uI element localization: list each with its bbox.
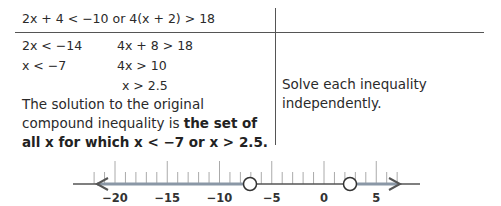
right-step-1: 4x + 8 > 18	[117, 38, 193, 54]
number-line-labels: −20−15−10−505	[102, 191, 380, 205]
left-step-2: x < −7	[22, 58, 66, 74]
right-step-3: x > 2.5	[122, 78, 168, 94]
tick-label: −5	[263, 191, 281, 205]
tick-label: 5	[372, 191, 380, 205]
tick-label: −20	[102, 191, 128, 205]
conclusion-paragraph: The solution to the original compound in…	[22, 95, 272, 152]
number-line: −20−15−10−505	[0, 150, 501, 206]
column-divider	[275, 8, 276, 145]
open-circle-2-5	[344, 178, 357, 191]
left-step-1: 2x < −14	[22, 38, 82, 54]
equation-text: 2x + 4 < −10 or 4(x + 2) > 18	[22, 11, 215, 26]
table-header-divider	[15, 32, 484, 33]
tick-label: −15	[154, 191, 180, 205]
tick-label: −10	[207, 191, 233, 205]
tick-label: 0	[320, 191, 328, 205]
conclusion-prefix: The solution to the original compound in…	[22, 96, 204, 131]
open-circle-neg7	[244, 178, 257, 191]
explanation-note: Solve each inequality independently.	[282, 75, 482, 113]
compound-inequality: 2x + 4 < −10 or 4(x + 2) > 18	[22, 11, 215, 27]
right-step-2: 4x > 10	[117, 58, 167, 74]
